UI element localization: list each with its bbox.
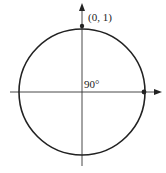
point-top-label: (0, 1) bbox=[88, 11, 112, 24]
x-axis-arrow-icon bbox=[154, 89, 162, 95]
y-axis-arrow-icon bbox=[79, 3, 85, 11]
unit-circle-diagram: (0, 1) 90° bbox=[0, 0, 166, 173]
point-right bbox=[142, 90, 147, 95]
angle-label: 90° bbox=[84, 78, 99, 90]
point-top bbox=[80, 24, 84, 28]
